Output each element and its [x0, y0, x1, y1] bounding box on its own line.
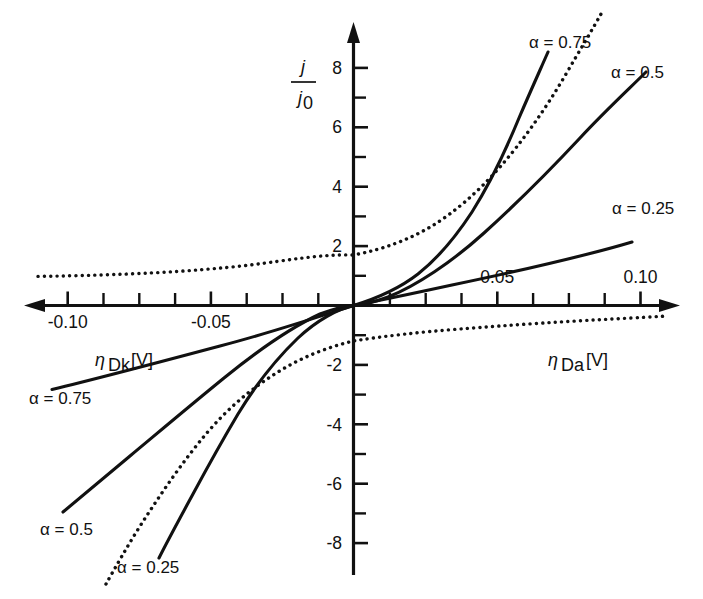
dotted-curve-upper: [38, 14, 601, 276]
label-alpha-075-bottom: α = 0.75: [29, 389, 91, 408]
x-axis-left-arrowhead: [24, 299, 45, 312]
y-tick-label-8: 8: [332, 58, 342, 78]
x-axis-title-right: η Da [V]: [548, 350, 608, 375]
y-tick-label-neg4: -4: [326, 415, 342, 435]
y-axis-top-arrowhead: [347, 22, 360, 43]
x-axis-title-left-eta: η: [95, 350, 105, 370]
x-axis-title-right-unit: [V]: [586, 350, 608, 370]
y-tick-label-neg6: -6: [326, 474, 342, 494]
x-axis-title-left-subscript: Dk: [108, 355, 131, 375]
label-alpha-05-bottom: α = 0.5: [40, 520, 93, 539]
y-tick-label-neg2: -2: [326, 355, 342, 375]
x-axis-title-left: η Dk [V]: [95, 350, 153, 375]
x-axis-title-right-eta: η: [548, 350, 558, 370]
label-alpha-075-top: α = 0.75: [529, 33, 591, 52]
butler-volmer-figure: 8 6 4 2 -2 -4 -6 -8 -0.10 -0.05 0.05 0.1…: [0, 0, 703, 599]
current-density-overpotential-plot: 8 6 4 2 -2 -4 -6 -8 -0.10 -0.05 0.05 0.1…: [0, 0, 703, 599]
y-tick-label-2: 2: [332, 236, 342, 256]
y-axis-title: j j 0: [291, 57, 316, 113]
y-axis-title-denominator: j: [295, 88, 303, 108]
x-axis-title-right-subscript: Da: [561, 355, 585, 375]
y-axis-title-denominator-subscript: 0: [303, 93, 313, 113]
y-axis-title-numerator: j: [298, 57, 306, 77]
label-alpha-05-top: α = 0.5: [611, 63, 664, 82]
y-tick-label-neg8: -8: [326, 533, 342, 553]
label-alpha-025-top: α = 0.25: [612, 199, 674, 218]
y-tick-label-4: 4: [332, 177, 342, 197]
x-tick-label-005: 0.05: [480, 267, 514, 287]
x-axis-title-left-unit: [V]: [131, 350, 153, 370]
label-alpha-025-bottom: α = 0.25: [117, 558, 179, 577]
x-tick-label-010: 0.10: [623, 267, 657, 287]
x-axis-right-arrowhead: [659, 299, 680, 312]
x-tick-label-neg005: -0.05: [191, 312, 231, 332]
y-tick-label-6: 6: [332, 117, 342, 137]
x-tick-label-neg010: -0.10: [48, 312, 88, 332]
axis-group: [24, 22, 680, 575]
